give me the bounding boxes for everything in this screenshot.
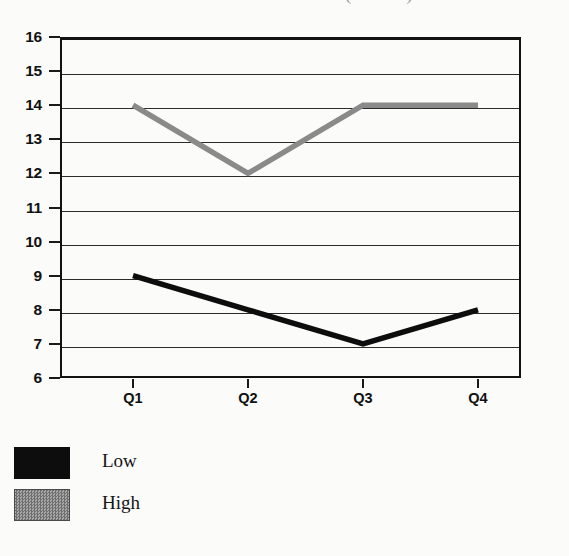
- chart-title: (dollars): [345, 0, 535, 5]
- gridline: [62, 279, 519, 280]
- x-tick-mark: [477, 379, 479, 388]
- y-tick-label: 15: [8, 62, 42, 80]
- y-tick-label: 6: [8, 369, 42, 387]
- gridlines: [62, 40, 519, 376]
- plot-area: [60, 37, 521, 378]
- y-tick-mark: [49, 70, 60, 72]
- y-tick-label: 16: [8, 28, 42, 46]
- x-tick-mark: [247, 379, 249, 388]
- gridline: [62, 74, 519, 75]
- x-tick-label: Q2: [238, 390, 258, 406]
- legend-swatch-low-icon: [14, 447, 70, 479]
- y-tick-label: 12: [8, 164, 42, 182]
- y-tick-mark: [49, 138, 60, 140]
- x-tick-label: Q3: [353, 390, 373, 406]
- x-tick-label: Q1: [123, 390, 143, 406]
- chart-legend: Low High: [14, 447, 264, 531]
- y-tick-label: 14: [8, 96, 42, 114]
- y-tick-mark: [49, 207, 60, 209]
- y-tick-label: 7: [8, 335, 42, 353]
- y-axis: 161514131211109876: [0, 0, 60, 420]
- x-tick-mark: [362, 379, 364, 388]
- legend-label-low: Low: [102, 450, 137, 472]
- chart-page: (dollars) 161514131211109876 Q1Q2Q3Q4 Lo…: [0, 0, 569, 556]
- y-tick-mark: [49, 241, 60, 243]
- y-tick-label: 13: [8, 130, 42, 148]
- legend-label-high: High: [102, 492, 140, 514]
- gridline: [62, 313, 519, 314]
- y-tick-label: 9: [8, 267, 42, 285]
- gridline: [62, 176, 519, 177]
- x-tick-mark: [132, 379, 134, 388]
- legend-item-low: Low: [14, 447, 264, 489]
- gridline: [62, 347, 519, 348]
- x-tick-label: Q4: [468, 390, 488, 406]
- gridline: [62, 245, 519, 246]
- y-tick-label: 10: [8, 233, 42, 251]
- y-tick-mark: [49, 377, 60, 379]
- y-tick-mark: [49, 309, 60, 311]
- gridline: [62, 108, 519, 109]
- gridline: [62, 211, 519, 212]
- legend-swatch-high-icon: [14, 489, 70, 521]
- y-tick-label: 11: [8, 199, 42, 217]
- legend-item-high: High: [14, 489, 264, 531]
- y-tick-mark: [49, 104, 60, 106]
- gridline: [62, 142, 519, 143]
- y-tick-mark: [49, 36, 60, 38]
- y-tick-mark: [49, 275, 60, 277]
- y-tick-label: 8: [8, 301, 42, 319]
- y-tick-mark: [49, 172, 60, 174]
- y-tick-mark: [49, 343, 60, 345]
